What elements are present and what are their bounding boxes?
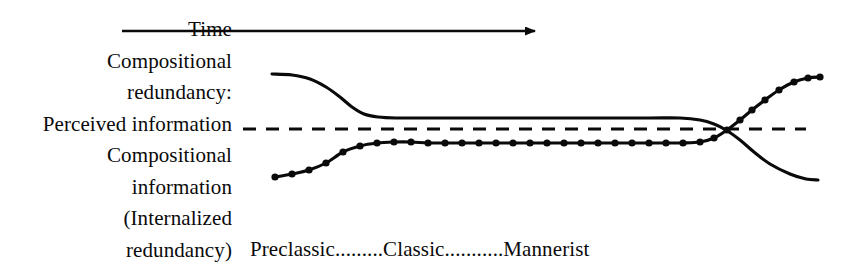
data-point-marker: [475, 139, 482, 146]
data-point-marker: [723, 126, 730, 133]
data-point-marker: [560, 139, 567, 146]
plot-area: [0, 0, 859, 278]
data-point-marker: [339, 148, 346, 155]
data-point-marker: [271, 173, 278, 180]
data-point-marker: [790, 78, 797, 85]
data-point-marker: [679, 139, 686, 146]
compositional-information-markers: [271, 73, 823, 180]
data-point-marker: [424, 139, 431, 146]
data-point-marker: [288, 170, 295, 177]
data-point-marker: [322, 159, 329, 166]
data-point-marker: [761, 96, 768, 103]
data-point-marker: [594, 139, 601, 146]
data-point-marker: [736, 116, 743, 123]
data-point-marker: [775, 86, 782, 93]
data-point-marker: [645, 139, 652, 146]
data-point-marker: [441, 139, 448, 146]
compositional-redundancy-curve-path: [272, 74, 818, 180]
data-point-marker: [526, 139, 533, 146]
data-point-marker: [696, 138, 703, 145]
data-point-marker: [509, 139, 516, 146]
compositional-information-curve-path: [275, 77, 820, 177]
data-point-marker: [356, 142, 363, 149]
data-point-marker: [543, 139, 550, 146]
data-point-marker: [710, 134, 717, 141]
data-point-marker: [611, 139, 618, 146]
data-point-marker: [662, 139, 669, 146]
data-point-marker: [628, 139, 635, 146]
data-point-marker: [305, 166, 312, 173]
data-point-marker: [458, 139, 465, 146]
data-point-marker: [492, 139, 499, 146]
data-point-marker: [390, 138, 397, 145]
data-point-marker: [748, 106, 755, 113]
data-point-marker: [804, 74, 811, 81]
data-point-marker: [407, 138, 414, 145]
data-point-marker: [816, 73, 823, 80]
data-point-marker: [577, 139, 584, 146]
figure-container: Time Compositional redundancy: Perceived…: [0, 0, 859, 278]
data-point-marker: [373, 139, 380, 146]
